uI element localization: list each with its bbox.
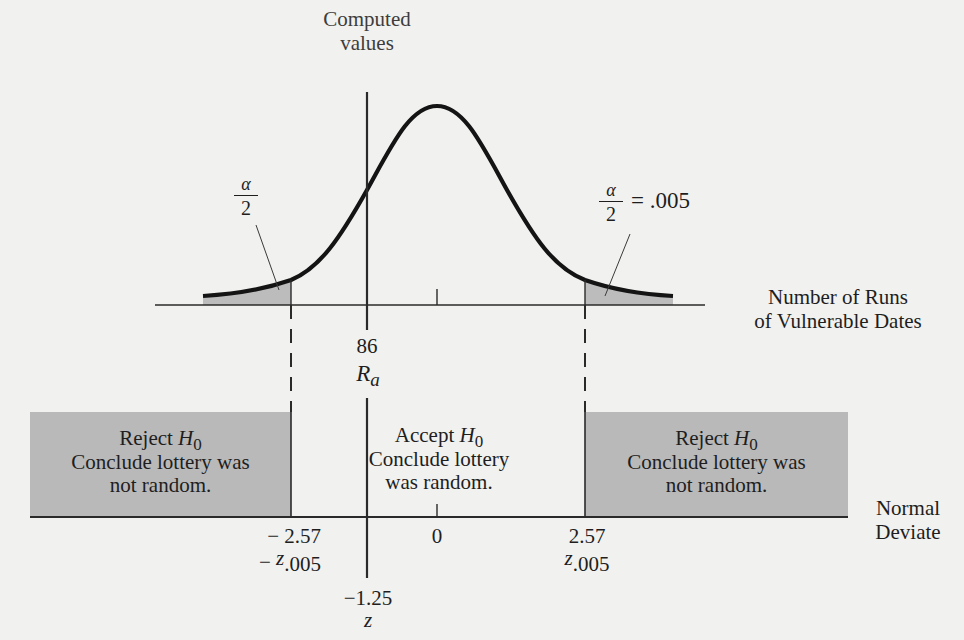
reject-right-region-text: Reject H0 Conclude lottery was not rando… bbox=[585, 427, 848, 497]
lower-axis-title-line2: Deviate bbox=[852, 520, 964, 544]
tick-sub: .005 bbox=[573, 552, 610, 576]
tick-pos-z-005: z.005 bbox=[556, 550, 618, 574]
tick-pos-2-57: 2.57 bbox=[562, 524, 612, 548]
computed-z-value: −1.25 bbox=[330, 586, 406, 610]
upper-axis-title-line2: of Vulnerable Dates bbox=[714, 309, 962, 333]
alpha-denominator: 2 bbox=[234, 197, 258, 219]
alpha-symbol: α bbox=[234, 174, 258, 194]
right-alpha-value: = .005 bbox=[631, 189, 690, 213]
region-title-symbol: H bbox=[734, 426, 749, 450]
reject-right-line2: Conclude lottery was bbox=[585, 451, 848, 474]
runs-symbol-r: R bbox=[356, 361, 370, 386]
tick-neg-2-57: − 2.57 bbox=[245, 524, 321, 548]
fraction-bar bbox=[234, 195, 258, 196]
upper-axis-title: Number of Runs of Vulnerable Dates bbox=[714, 285, 962, 333]
alpha-denominator: 2 bbox=[599, 203, 623, 225]
lower-axis-title-line1: Normal bbox=[852, 496, 964, 520]
tick-neg-z-005: − z.005 bbox=[236, 550, 321, 574]
region-title-sub: 0 bbox=[749, 435, 758, 454]
lower-axis-title: Normal Deviate bbox=[852, 496, 964, 544]
reject-left-region-text: Reject H0 Conclude lottery was not rando… bbox=[30, 427, 291, 497]
accept-region-text: Accept H0 Conclude lottery was random. bbox=[356, 424, 522, 494]
region-title-sub: 0 bbox=[193, 435, 202, 454]
computed-runs-value: 86 bbox=[347, 334, 387, 358]
tick-symbol: z bbox=[565, 546, 573, 570]
left-alpha-half-label: α 2 bbox=[234, 174, 258, 219]
hypothesis-test-diagram: Computed values α 2 α 2 = .005 Number of… bbox=[0, 0, 964, 640]
reject-left-title: Reject H0 bbox=[30, 427, 291, 451]
right-alpha-leader bbox=[605, 234, 630, 296]
reject-right-line3: not random. bbox=[585, 474, 848, 497]
tick-sub: .005 bbox=[284, 552, 321, 576]
accept-line2: Conclude lottery bbox=[356, 448, 522, 471]
computed-runs-symbol: Ra bbox=[344, 362, 392, 387]
region-title-text: Reject bbox=[119, 426, 178, 450]
accept-line3: was random. bbox=[356, 471, 522, 494]
computed-values-line2: values bbox=[297, 31, 437, 55]
alpha-symbol: α bbox=[599, 180, 623, 200]
reject-left-line3: not random. bbox=[30, 474, 291, 497]
upper-axis-title-line1: Number of Runs bbox=[714, 285, 962, 309]
computed-values-line1: Computed bbox=[297, 7, 437, 31]
region-title-text: Reject bbox=[675, 426, 734, 450]
region-title-symbol: H bbox=[178, 426, 193, 450]
tick-zero: 0 bbox=[422, 524, 452, 548]
computed-z-symbol: z bbox=[353, 608, 383, 632]
region-title-text: Accept bbox=[395, 423, 460, 447]
computed-values-label: Computed values bbox=[297, 7, 437, 55]
region-title-sub: 0 bbox=[475, 432, 484, 451]
reject-right-title: Reject H0 bbox=[585, 427, 848, 451]
region-title-symbol: H bbox=[460, 423, 475, 447]
left-alpha-leader bbox=[256, 225, 279, 290]
reject-left-line2: Conclude lottery was bbox=[30, 451, 291, 474]
tick-prefix: − bbox=[259, 550, 276, 574]
right-alpha-half-label: α 2 bbox=[599, 180, 623, 225]
fraction-bar bbox=[599, 201, 623, 202]
accept-title: Accept H0 bbox=[356, 424, 522, 448]
runs-symbol-sub: a bbox=[370, 369, 380, 390]
